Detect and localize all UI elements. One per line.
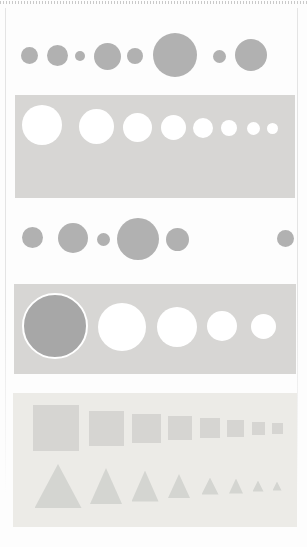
gray-circle: [117, 218, 159, 260]
right-margin-line: [297, 8, 298, 538]
gray-circle: [213, 50, 226, 63]
white-circle: [157, 307, 197, 347]
gray-circle: [58, 223, 88, 253]
white-circle: [267, 123, 278, 134]
white-circle: [251, 314, 276, 339]
gray-circle: [94, 43, 121, 70]
square-shape: [227, 420, 244, 437]
white-circle: [22, 105, 62, 145]
top-dotted-border: [0, 1, 307, 4]
gray-circle: [127, 48, 143, 64]
square-shape: [132, 414, 161, 443]
square-shape: [200, 418, 220, 438]
scanned-page: [0, 0, 307, 547]
white-circle: [161, 115, 186, 140]
square-shape: [89, 411, 124, 446]
white-circle: [123, 113, 152, 142]
gray-circle: [235, 39, 267, 71]
dark-ringed-circle: [22, 293, 88, 359]
gray-panel-1: [15, 95, 295, 198]
white-circle: [98, 303, 146, 351]
gray-circle: [47, 45, 68, 66]
gray-circle: [22, 227, 43, 248]
gray-circle: [153, 33, 197, 77]
left-margin-line: [5, 8, 6, 538]
square-shape: [168, 416, 192, 440]
white-circle: [79, 109, 114, 144]
white-circle: [221, 120, 237, 136]
gray-circle: [277, 230, 294, 247]
square-shape: [252, 422, 265, 435]
square-shape: [33, 405, 79, 451]
white-circle: [193, 118, 213, 138]
gray-circle: [75, 51, 85, 61]
gray-circle: [21, 47, 38, 64]
gray-circle: [97, 233, 110, 246]
square-shape: [272, 423, 283, 434]
gray-circle: [166, 228, 189, 251]
white-circle: [247, 122, 260, 135]
white-circle: [207, 311, 237, 341]
